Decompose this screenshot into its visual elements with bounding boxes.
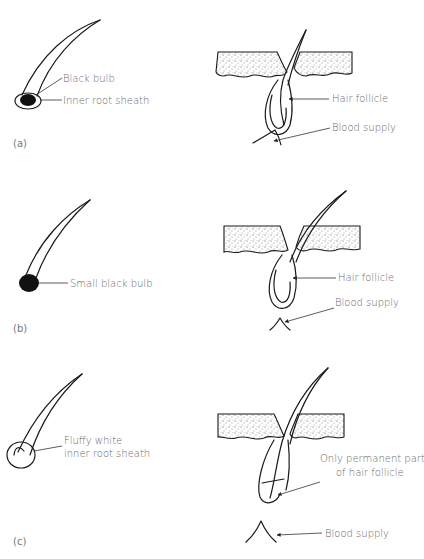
label-blood-supply-a: Blood supply bbox=[332, 122, 396, 133]
label-only-permanent-part: Only permanent part bbox=[320, 453, 424, 464]
label-of-hair-follicle: of hair follicle bbox=[336, 467, 404, 478]
label-black-bulb: Black bulb bbox=[63, 73, 115, 84]
label-hair-follicle-a: Hair follicle bbox=[332, 93, 388, 104]
black-bulb-shape bbox=[20, 94, 36, 106]
hair-growth-diagram: Black bulb Inner root sheath (a) Hair fo… bbox=[0, 0, 424, 559]
label-blood-supply-c: Blood supply bbox=[325, 528, 389, 539]
panel-c: Fluffy white inner root sheath (c) Only … bbox=[7, 368, 424, 547]
label-hair-follicle-b: Hair follicle bbox=[338, 272, 394, 283]
panel-a: Black bulb Inner root sheath (a) Hair fo… bbox=[13, 20, 396, 149]
label-small-black-bulb: Small black bulb bbox=[70, 278, 153, 289]
panel-b: Small black bulb (b) Hair follicle Blood… bbox=[13, 191, 399, 334]
label-inner-root-sheath-c: inner root sheath bbox=[64, 448, 150, 459]
label-fluffy-white: Fluffy white bbox=[64, 435, 122, 446]
panel-label-b: (b) bbox=[13, 323, 27, 334]
panel-label-c: (c) bbox=[13, 536, 26, 547]
panel-label-a: (a) bbox=[13, 138, 27, 149]
label-blood-supply-b: Blood supply bbox=[335, 297, 399, 308]
small-black-bulb-shape bbox=[19, 274, 39, 292]
label-inner-root-sheath: Inner root sheath bbox=[63, 95, 149, 106]
follicle-b bbox=[224, 191, 360, 330]
